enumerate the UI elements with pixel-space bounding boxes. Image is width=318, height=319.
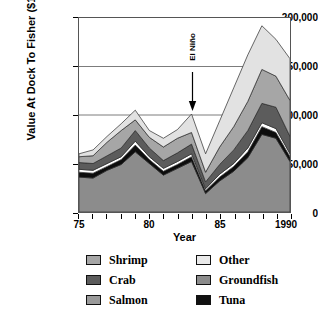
- x-tick-label: 85: [200, 219, 240, 230]
- legend-item-other: Other: [196, 253, 306, 268]
- y-axis-title: Value At Dock To Fisher ($1,000): [21, 0, 41, 151]
- x-tick-label: 1990: [266, 219, 306, 230]
- legend-label: Salmon: [109, 293, 148, 308]
- legend-swatch-tuna: [196, 295, 211, 305]
- chart-figure: Value At Dock To Fisher ($1,000) 200,000…: [0, 0, 318, 319]
- legend-item-shrimp: Shrimp: [86, 253, 196, 268]
- x-tick-mark: [192, 214, 193, 219]
- x-tick-mark: [106, 214, 107, 219]
- legend-label: Other: [219, 253, 250, 268]
- plot-area: [78, 17, 291, 213]
- legend-swatch-groundfish: [196, 275, 211, 285]
- legend-swatch-crab: [86, 275, 101, 285]
- x-tick-mark: [249, 214, 250, 219]
- x-tick-mark: [121, 214, 122, 219]
- legend-swatch-other: [196, 255, 211, 265]
- legend-label: Crab: [109, 273, 136, 288]
- legend-item-crab: Crab: [86, 273, 196, 288]
- x-tick-mark: [178, 214, 179, 219]
- legend-row: Crab Groundfish: [86, 270, 306, 290]
- stacked-area-svg: [79, 18, 290, 212]
- legend-label: Groundfish: [219, 273, 278, 288]
- x-axis-title: Year: [78, 231, 291, 243]
- legend-swatch-shrimp: [86, 255, 101, 265]
- el-nino-annotation-label: El Niño: [186, 21, 200, 73]
- chart-legend: Shrimp Other Crab Groundfish Salmon: [86, 250, 306, 310]
- legend-swatch-salmon: [86, 295, 101, 305]
- x-tick-label: 75: [59, 219, 99, 230]
- legend-item-groundfish: Groundfish: [196, 273, 306, 288]
- legend-label: Shrimp: [109, 253, 148, 268]
- legend-item-tuna: Tuna: [196, 293, 306, 308]
- x-tick-label: 80: [129, 219, 169, 230]
- legend-item-salmon: Salmon: [86, 293, 196, 308]
- legend-row: Shrimp Other: [86, 250, 306, 270]
- x-tick-mark: [263, 214, 264, 219]
- legend-label: Tuna: [219, 293, 245, 308]
- legend-row: Salmon Tuna: [86, 290, 306, 310]
